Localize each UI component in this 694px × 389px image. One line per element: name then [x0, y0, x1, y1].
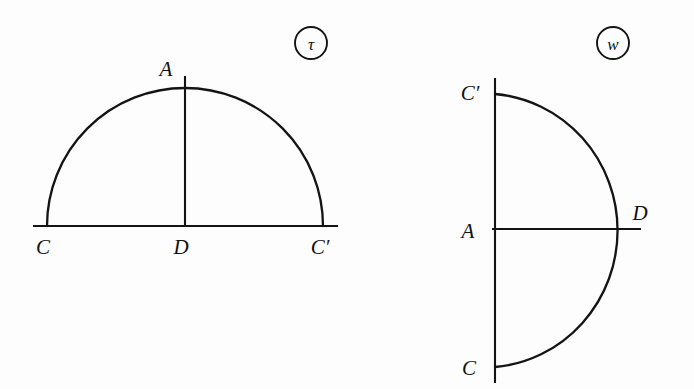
- w-semicircle-arc: [495, 94, 618, 367]
- w-label-a: A: [460, 219, 475, 243]
- w-tag-glyph: w: [607, 35, 619, 54]
- tau-tag-glyph: τ: [308, 35, 315, 54]
- tau-tag: τ: [295, 27, 327, 59]
- tau-label-d: D: [172, 235, 188, 259]
- w-label-c: C: [462, 356, 477, 380]
- geometry-figure-pair: τ A C D C′ w C′ A D C: [0, 0, 694, 389]
- tau-label-c: C: [36, 235, 51, 259]
- tau-label-a: A: [158, 57, 173, 81]
- panel-tau: τ A C D C′: [33, 27, 338, 259]
- panel-w: w C′ A D C: [460, 27, 648, 383]
- w-label-d: D: [631, 201, 647, 225]
- tau-label-c-prime: C′: [311, 235, 330, 259]
- w-tag: w: [597, 27, 629, 59]
- w-label-c-prime: C′: [461, 81, 480, 105]
